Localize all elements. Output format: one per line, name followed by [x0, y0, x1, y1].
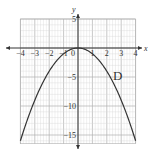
y-tick-label: 5: [72, 15, 76, 24]
x-tick-label: 4: [134, 49, 138, 58]
x-tick-label: −1: [59, 49, 68, 58]
panel-label: D: [113, 68, 122, 83]
x-tick-label: −4: [16, 49, 25, 58]
y-axis-label: y: [71, 5, 76, 14]
x-tick-label: 2: [105, 49, 109, 58]
x-tick-label: −3: [31, 49, 40, 58]
x-tick-label: 1: [90, 49, 94, 58]
y-tick-label: −5: [67, 73, 76, 82]
y-axis-arrow-down: [76, 145, 80, 149]
x-tick-label: 0: [71, 49, 75, 58]
y-tick-label: −15: [63, 131, 76, 140]
x-tick-label: −2: [45, 49, 54, 58]
x-axis-arrow-right: [138, 46, 142, 50]
y-axis-arrow-up: [76, 14, 80, 18]
x-axis-arrow-left: [6, 46, 10, 50]
parabola-chart: −4−3−2−1012345−5−10−15xy D: [0, 0, 148, 154]
y-tick-label: −10: [63, 102, 76, 111]
x-tick-label: 3: [119, 49, 123, 58]
x-axis-label: x: [143, 44, 148, 53]
